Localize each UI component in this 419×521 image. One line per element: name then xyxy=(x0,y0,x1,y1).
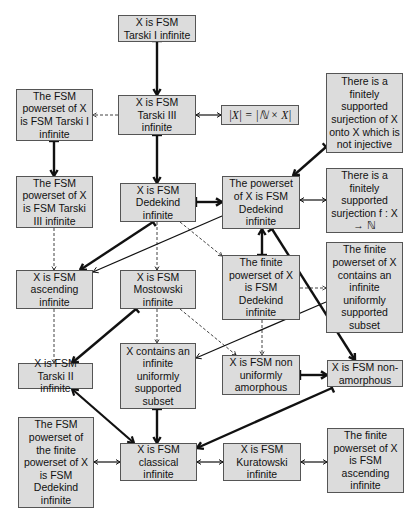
node-label: |X| = |ℕ × X| xyxy=(229,109,292,122)
node-surj-N: There is a finitely supported surjection… xyxy=(326,168,403,233)
node-label: X is FSM Tarski II infinite xyxy=(21,357,90,395)
node-label: The powerset of X is FSM Dedekind infini… xyxy=(225,177,297,227)
node-uniform-subset: X contains an infinite uniformly support… xyxy=(120,343,196,409)
node-card: |X| = |ℕ × X| xyxy=(221,105,299,125)
node-mostowski: X is FSM Mostowski infinite xyxy=(120,270,196,309)
node-pow-dedekind: The powerset of X is FSM Dedekind infini… xyxy=(222,176,300,229)
node-pow-tarski3: The FSM powerset of X is FSM Tarski III … xyxy=(16,176,93,228)
implication-diagram: X is FSM Tarski I infiniteX is FSM Tarsk… xyxy=(0,0,419,521)
node-finpow-ascending: The finite powerset of X is FSM ascendin… xyxy=(327,428,404,493)
node-finpow-uniform: The finite powerset of X contains an inf… xyxy=(326,242,403,333)
node-pow-tarski1: The FSM powerset of X is FSM Tarski I in… xyxy=(16,89,93,141)
node-tarski1: X is FSM Tarski I infinite xyxy=(118,15,196,42)
node-label: The FSM powerset of the finite powerset … xyxy=(21,418,91,506)
node-label: The finite powerset of X contains an inf… xyxy=(329,243,400,331)
node-surj-noninj: There is a finitely supported surjection… xyxy=(326,73,403,153)
node-label: X is FSM Dedekind infinite xyxy=(123,184,193,222)
node-label: There is a finitely supported surjection… xyxy=(329,169,400,232)
node-tarski2: X is FSM Tarski II infinite xyxy=(18,363,93,389)
node-label: X is FSM Tarski III infinite xyxy=(121,96,193,134)
node-label: The finite powerset of X is FSM Dedekind… xyxy=(225,256,297,319)
node-label: X is FSM ascending infinite xyxy=(19,271,90,309)
node-label: The FSM powerset of X is FSM Tarski III … xyxy=(19,177,90,227)
node-label: X is FSM non-amorphous xyxy=(330,361,400,386)
node-finpow-dedekind: The finite powerset of X is FSM Dedekind… xyxy=(222,255,300,320)
node-label: X is FSM Tarski I infinite xyxy=(121,16,193,41)
node-label: X is FSM non uniformly amorphous xyxy=(225,356,297,394)
node-label: The finite powerset of X is FSM ascendin… xyxy=(330,429,401,492)
node-pow-finpow-dedekind: The FSM powerset of the finite powerset … xyxy=(18,417,94,508)
node-tarski3: X is FSM Tarski III infinite xyxy=(118,95,196,135)
node-label: X is FSM Kuratowski infinite xyxy=(226,443,298,481)
node-non-amorph: X is FSM non-amorphous xyxy=(327,360,403,387)
node-dedekind: X is FSM Dedekind infinite xyxy=(120,183,196,222)
node-label: The FSM powerset of X is FSM Tarski I in… xyxy=(19,90,90,140)
node-ascending: X is FSM ascending infinite xyxy=(16,270,93,309)
node-label: X is FSM Mostowski infinite xyxy=(123,271,193,309)
node-non-unif-amorph: X is FSM non uniformly amorphous xyxy=(222,355,300,395)
node-label: X contains an infinite uniformly support… xyxy=(123,345,193,408)
node-classical: X is FSM classical infinite xyxy=(120,443,197,481)
node-label: There is a finitely supported surjection… xyxy=(329,75,400,151)
node-label: X is FSM classical infinite xyxy=(123,443,194,481)
node-kuratowski: X is FSM Kuratowski infinite xyxy=(223,443,301,481)
